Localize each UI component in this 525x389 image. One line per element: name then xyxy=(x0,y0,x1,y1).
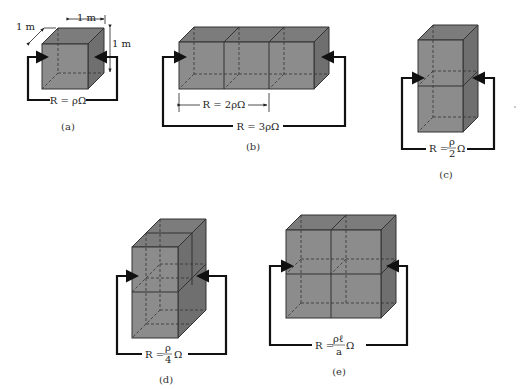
fraction-numerator-e: ρℓ xyxy=(333,333,344,344)
cube-block-e xyxy=(286,215,396,318)
caption-d: (d) xyxy=(159,374,173,385)
panel-b: R = 2ρΩ R = 3ρΩ (b) xyxy=(163,27,345,152)
cube-a xyxy=(42,28,104,89)
dimension-height-label: 1 m xyxy=(112,38,132,49)
dimension-depth-label: 1 m xyxy=(16,21,36,32)
cube-row-b xyxy=(179,27,329,89)
cube-stack-c xyxy=(418,25,478,132)
fraction-denominator-c: 2 xyxy=(449,148,455,159)
panel-c: R = ρ 2 Ω (c) xyxy=(402,25,516,180)
cube-block-d xyxy=(132,219,206,338)
fraction-numerator-c: ρ xyxy=(449,136,455,147)
caption-e: (e) xyxy=(332,366,346,377)
resistance-label-c: R = ρ 2 Ω xyxy=(429,136,465,159)
dimension-width-label: 1 m xyxy=(77,12,97,23)
resistance-label-b: R = 3ρΩ xyxy=(237,121,280,132)
inner-resistance-label-b: R = 2ρΩ xyxy=(203,99,246,110)
svg-text:R =: R = xyxy=(429,143,448,154)
caption-a: (a) xyxy=(61,121,75,132)
svg-text:Ω: Ω xyxy=(174,349,182,360)
svg-text:Ω: Ω xyxy=(346,340,354,351)
resistivity-cube-diagram: 1 m 1 m 1 m R = ρΩ (a) xyxy=(0,0,525,389)
svg-text:R =: R = xyxy=(145,349,164,360)
svg-text:Ω: Ω xyxy=(457,143,465,154)
panel-e: R = ρℓ a Ω (e) xyxy=(270,215,407,377)
fraction-denominator-d: 4 xyxy=(165,354,171,365)
fraction-numerator-d: ρ xyxy=(165,342,171,353)
svg-text:R =: R = xyxy=(315,340,334,351)
resistance-label-e: R = ρℓ a Ω xyxy=(315,333,354,357)
caption-c: (c) xyxy=(439,169,453,180)
panel-a: 1 m 1 m 1 m R = ρΩ (a) xyxy=(16,12,132,132)
resistance-label-a: R = ρΩ xyxy=(50,95,86,106)
fraction-denominator-e: a xyxy=(336,346,342,357)
panel-d: R = ρ 4 Ω (d) xyxy=(117,219,226,385)
resistance-label-d: R = ρ 4 Ω xyxy=(145,342,182,365)
caption-b: (b) xyxy=(246,141,260,152)
